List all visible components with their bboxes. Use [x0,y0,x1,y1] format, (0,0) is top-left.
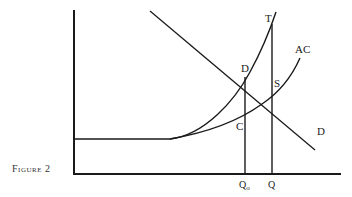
label-point-s: S [274,78,280,89]
label-t: T [265,13,272,24]
curve-t [170,12,276,139]
tick-q0-sub: o [246,184,250,192]
diagram-canvas [0,0,352,197]
label-ac: AC [295,44,310,55]
curve-ac [170,58,300,139]
label-d-line: D [317,126,325,137]
curve-d [150,11,315,150]
tick-q: Q [268,180,275,190]
label-point-c: C [236,121,243,132]
tick-q0: Qo [239,180,250,192]
figure-caption: Figure 2 [12,163,50,174]
label-point-d: D [241,63,249,74]
